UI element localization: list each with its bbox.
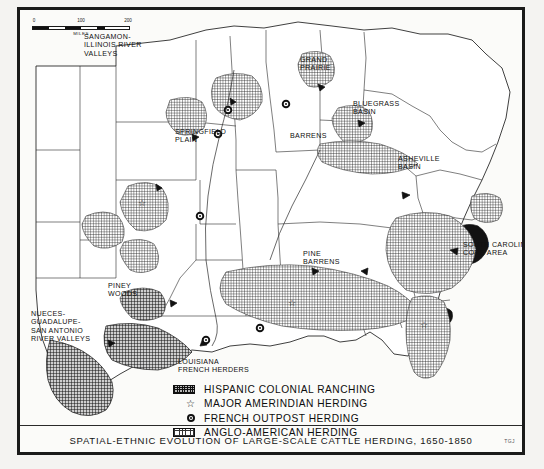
scale-bar: 0 100 200 MILES [32,18,130,36]
scale-tick-0: 0 [33,18,36,23]
scale-tick-100: 100 [77,18,85,23]
caption-divider [20,425,522,426]
legend-item-hispanic-colonial-ranching: HISPANIC COLONIAL RANCHING [170,382,430,397]
plate-caption: SPATIAL-ETHNIC EVOLUTION OF LARGE-SCALE … [20,435,522,446]
map-legend: HISPANIC COLONIAL RANCHING ☆ MAJOR AMERI… [170,382,430,440]
map-plate: ☆ ☆ ☆ [17,7,525,455]
legend-item-major-amerindian-herding: ☆ MAJOR AMERINDIAN HERDING [170,397,430,412]
star-icon: ☆ [170,399,204,409]
scale-units-label: MILES [32,31,130,36]
legend-label-french-outpost-herding: FRENCH OUTPOST HERDING [204,413,359,424]
legend-label-major-amerindian-herding: MAJOR AMERINDIAN HERDING [204,398,368,409]
scale-bar-graphic [32,26,130,30]
amerindian-star-marker: ☆ [288,298,296,308]
scale-tick-labels: 0 100 200 [32,18,130,26]
circle-dot-icon [170,414,204,422]
legend-label-hispanic-colonial-ranching: HISPANIC COLONIAL RANCHING [204,384,376,395]
plate-credit: TGJ [504,438,515,444]
amerindian-star-marker: ☆ [420,320,428,330]
dark-hatch-swatch-icon [170,385,204,394]
scale-tick-200: 200 [124,18,132,23]
amerindian-star-marker: ☆ [138,198,146,208]
screenshot-page: ☆ ☆ ☆ [0,0,544,469]
legend-item-french-outpost-herding: FRENCH OUTPOST HERDING [170,411,430,426]
map-inner: ☆ ☆ ☆ [20,10,522,452]
